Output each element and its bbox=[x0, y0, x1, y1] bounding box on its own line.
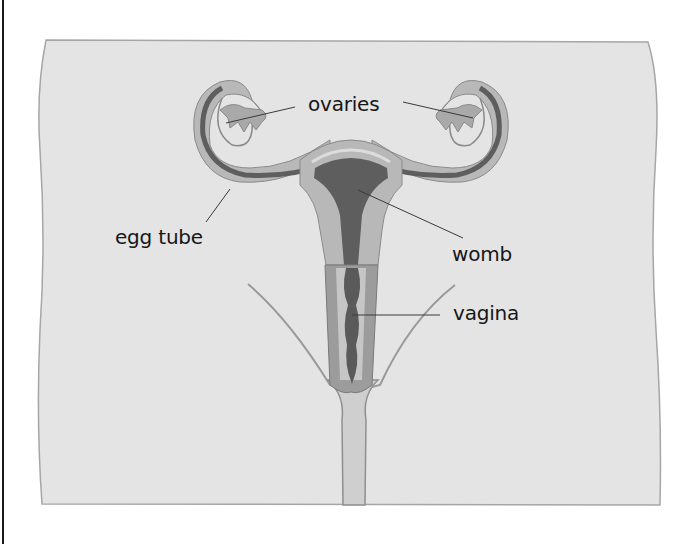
label-vagina: vagina bbox=[453, 303, 519, 323]
label-egg-tube: egg tube bbox=[115, 227, 203, 247]
reproductive-system-illustration bbox=[0, 0, 697, 544]
label-ovaries: ovaries bbox=[308, 94, 379, 114]
label-womb: womb bbox=[452, 244, 512, 264]
